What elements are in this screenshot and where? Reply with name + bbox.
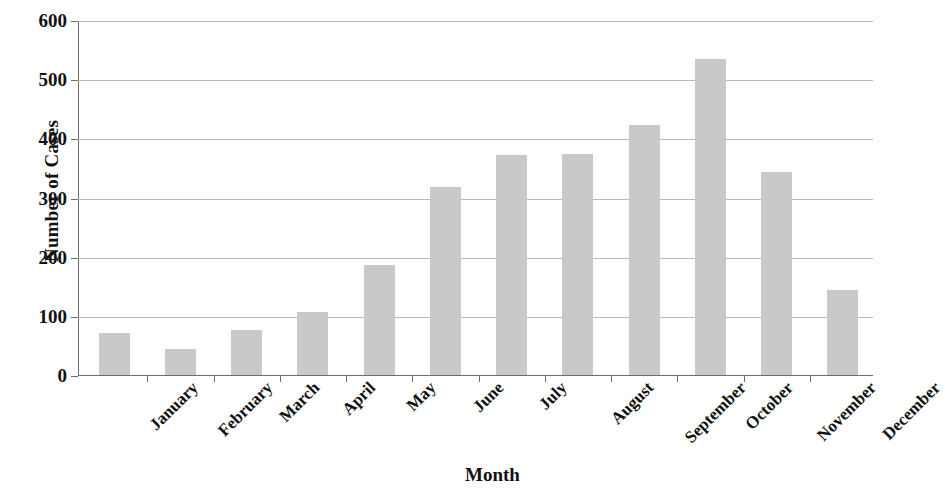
x-tick-label: November [813,378,881,446]
bar [761,172,792,375]
x-tick-label: March [275,378,324,427]
x-tick-label: April [338,378,380,420]
y-tick-label: 500 [39,69,68,91]
x-tick-label: May [403,378,441,416]
x-tick-label: August [607,378,658,429]
x-tick-label-text: June [470,378,509,417]
x-axis-title-text: Month [465,464,520,485]
x-axis-labels: JanuaryFebruaryMarchAprilMayJuneJulyAugu… [78,378,873,463]
x-tick-label: January [146,378,203,435]
x-tick-label: July [535,378,571,414]
gridline [78,21,873,22]
gridline [78,258,873,259]
x-tick-label: December [878,378,944,444]
y-tick-mark [71,80,78,81]
x-tick-label: June [470,378,509,417]
y-tick-label: 100 [39,306,68,328]
x-tick-label-text: July [535,378,571,414]
y-tick-mark [71,21,78,22]
y-tick-label: 300 [39,188,68,210]
y-tick-label: 600 [39,10,68,32]
x-tick-label-text: October [742,378,798,434]
gridline [78,139,873,140]
x-tick-label-text: September [681,378,751,448]
bar [629,125,660,375]
bar [562,154,593,375]
x-tick-label: October [742,378,798,434]
x-tick-label-text: August [607,378,658,429]
y-tick-mark [71,139,78,140]
gridline [78,80,873,81]
x-axis-title: Month [0,464,881,486]
x-tick-label-text: April [338,378,380,420]
bar [165,349,196,375]
y-tick-mark [71,317,78,318]
x-tick-label-text: March [275,378,324,427]
x-tick-label: February [215,378,278,441]
bar [231,330,262,375]
bar [695,59,726,375]
x-tick-label-text: November [813,378,881,446]
x-axis-line [78,375,873,376]
bar [496,155,527,375]
bar [827,290,858,375]
plot-area: 0100200300400500600 [78,21,873,376]
y-tick-mark [71,376,78,377]
bar [99,333,130,375]
bar [297,312,328,375]
gridline [78,199,873,200]
bar [430,187,461,375]
y-tick-label: 0 [58,365,68,387]
gridline [78,317,873,318]
bar [364,265,395,375]
x-tick-label: September [681,378,751,448]
x-tick-label-text: January [146,378,203,435]
x-tick-label-text: May [403,378,441,416]
y-tick-mark [71,258,78,259]
x-tick-label-text: February [215,378,278,441]
y-tick-label: 200 [39,247,68,269]
y-tick-mark [71,199,78,200]
y-tick-label: 400 [39,128,68,150]
x-tick-label-text: December [878,378,944,444]
